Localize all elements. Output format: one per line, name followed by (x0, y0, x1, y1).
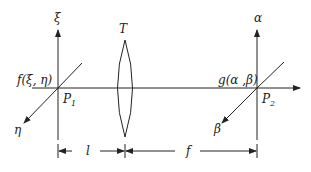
beta-label: β (213, 122, 221, 136)
distance-l-label: l (86, 144, 90, 158)
input-function-label: f(ξ, η) (16, 73, 53, 87)
alpha-label: α (254, 11, 262, 25)
xi-label: ξ (54, 11, 62, 25)
lens-label: T (119, 22, 128, 36)
plane2-label: P2 (261, 92, 275, 108)
plane1-label: P1 (62, 92, 76, 108)
output-function-label: g(α ,β) (218, 73, 258, 87)
eta-label: η (14, 123, 22, 137)
beta-axis (222, 88, 257, 123)
optical-diagram: ξ η T f(ξ, η) g(α ,β) α β P1 P2 l f (0, 0, 311, 172)
distance-f-label: f (185, 144, 193, 158)
eta-axis (24, 88, 58, 123)
